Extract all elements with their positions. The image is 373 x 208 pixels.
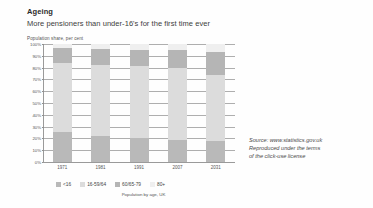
bar-segment[interactable]	[206, 141, 225, 162]
y-tick-label: 20%	[32, 136, 41, 141]
y-tick-label: 0%	[35, 160, 41, 165]
y-axis-caption: Population share, per cent	[27, 36, 83, 41]
bar-segment[interactable]	[168, 140, 187, 162]
y-tick-label: 70%	[32, 77, 41, 82]
x-tick-label: 2031	[211, 165, 221, 170]
stacked-bar[interactable]	[130, 44, 149, 162]
bar-segment[interactable]	[53, 63, 72, 133]
source-line-3: of the click-use license	[249, 152, 322, 160]
legend-label: 80+	[157, 182, 165, 187]
legend-item[interactable]: 60/65-79	[115, 182, 141, 187]
chart-header: Ageing More pensioners than under-16's f…	[27, 7, 210, 29]
bar-segment[interactable]	[168, 50, 187, 68]
y-tick-label: 40%	[32, 112, 41, 117]
page-title: Ageing	[27, 7, 210, 17]
bar-segment[interactable]	[130, 138, 149, 162]
bar-segment[interactable]	[91, 136, 110, 162]
y-tick-label: 30%	[32, 124, 41, 129]
legend-caption-text: Population by age, UK	[122, 192, 166, 197]
legend-item[interactable]: 80+	[150, 182, 165, 187]
legend-label: 60/65-79	[122, 182, 141, 187]
bar-segment[interactable]	[91, 49, 110, 66]
chart-legend: <1616-59/6460/65-7980+	[56, 182, 165, 187]
bar-segment[interactable]	[206, 44, 225, 52]
y-tick-label: 60%	[32, 89, 41, 94]
y-tick-label: 80%	[32, 65, 41, 70]
chart-subtitle: More pensioners than under-16's for the …	[27, 18, 210, 29]
legend-swatch-icon	[80, 182, 85, 187]
legend-label: <16	[63, 182, 71, 187]
x-tick-label: 1991	[134, 165, 144, 170]
legend-caption: Population by age, UK	[0, 192, 373, 197]
source-note: Source: www.statistics.gov.uk Reproduced…	[249, 136, 322, 161]
stacked-bar[interactable]	[168, 44, 187, 162]
legend-swatch-icon	[56, 182, 61, 187]
bar-segment[interactable]	[53, 132, 72, 162]
x-tick-label: 2007	[172, 165, 182, 170]
y-tick-label: 10%	[32, 148, 41, 153]
bar-segment[interactable]	[53, 48, 72, 63]
stacked-bar[interactable]	[91, 44, 110, 162]
source-line-2: Reproduced under the terms	[249, 144, 322, 152]
legend-item[interactable]: 16-59/64	[80, 182, 106, 187]
x-axis-labels: 19711981199120072031	[43, 165, 235, 175]
bar-segment[interactable]	[130, 66, 149, 138]
bar-segment[interactable]	[130, 50, 149, 67]
x-tick-label: 1981	[96, 165, 106, 170]
y-tick-label: 90%	[32, 53, 41, 58]
x-axis-line	[43, 162, 235, 163]
bar-segment[interactable]	[168, 68, 187, 140]
source-line-1: Source: www.statistics.gov.uk	[249, 136, 322, 144]
y-axis-ticks: 100%90%80%70%60%50%40%30%20%10%0%	[27, 44, 42, 162]
stacked-bar[interactable]	[206, 44, 225, 162]
bar-segment[interactable]	[206, 75, 225, 141]
legend-item[interactable]: <16	[56, 182, 71, 187]
y-tick-label: 50%	[32, 101, 41, 106]
x-tick-label: 1971	[57, 165, 67, 170]
bar-segment[interactable]	[206, 52, 225, 74]
legend-swatch-icon	[115, 182, 120, 187]
chart-page: Ageing More pensioners than under-16's f…	[0, 0, 373, 208]
plot-wrapper: 100%90%80%70%60%50%40%30%20%10%0%	[27, 44, 235, 162]
stacked-bar[interactable]	[53, 44, 72, 162]
legend-swatch-icon	[150, 182, 155, 187]
bar-segment[interactable]	[91, 65, 110, 136]
y-tick-label: 100%	[30, 42, 41, 47]
legend-label: 16-59/64	[87, 182, 106, 187]
bar-group	[43, 44, 235, 162]
